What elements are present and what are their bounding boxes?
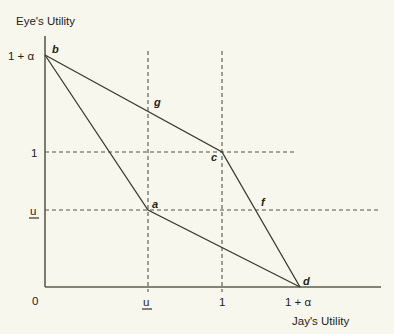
utility-frontier-figure: Eye's Utility Jay's Utility 0 1 + α 1 u …	[0, 0, 394, 334]
point-label-b: b	[52, 43, 59, 55]
y-tick-label-one: 1	[31, 147, 37, 159]
point-label-g: g	[153, 96, 161, 108]
y-axis-title: Eye's Utility	[16, 15, 75, 27]
lower-frontier-bad	[45, 55, 300, 287]
y-tick-label-u: u	[30, 205, 36, 217]
guide-lines	[45, 51, 381, 292]
y-tick-label-one-plus-alpha: 1 + α	[8, 50, 35, 62]
point-label-f: f	[261, 196, 266, 208]
point-label-a: a	[152, 198, 158, 210]
x-tick-label-u: u	[143, 296, 149, 308]
frontier-lines	[45, 55, 300, 287]
point-label-c: c	[211, 151, 217, 163]
chart-canvas: Eye's Utility Jay's Utility 0 1 + α 1 u …	[0, 0, 394, 334]
point-label-d: d	[303, 275, 310, 287]
origin-label: 0	[32, 295, 38, 307]
x-tick-label-one-plus-alpha: 1 + α	[285, 296, 312, 308]
x-axis-title: Jay's Utility	[292, 315, 349, 327]
x-tick-label-one: 1	[219, 296, 225, 308]
upper-frontier-bcd	[45, 55, 300, 287]
